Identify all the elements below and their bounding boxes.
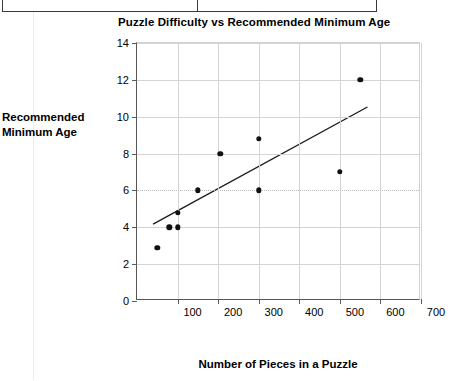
gridline-x-100 bbox=[178, 43, 179, 299]
gridline-x-600 bbox=[380, 43, 381, 299]
tick-x-200 bbox=[218, 299, 219, 304]
gridline-y-8 bbox=[137, 154, 419, 155]
plot-inner: 02468101214100200300400500600700 bbox=[137, 43, 419, 299]
table-fragment-cell-1 bbox=[2, 0, 198, 12]
y-tick-label-6: 6 bbox=[123, 184, 129, 196]
y-tick-label-10: 10 bbox=[117, 111, 129, 123]
x-axis-title: Number of Pieces in a Puzzle bbox=[136, 358, 420, 370]
gridline-y-6 bbox=[137, 190, 419, 191]
tick-x-500 bbox=[340, 299, 341, 304]
tick-x-400 bbox=[299, 299, 300, 304]
gridline-x-300 bbox=[259, 43, 260, 299]
y-axis-title: Recommended Minimum Age bbox=[2, 110, 114, 140]
plot-area: 02468101214100200300400500600700 bbox=[136, 42, 420, 300]
table-fragment bbox=[0, 0, 452, 14]
gridline-y-2 bbox=[137, 264, 419, 265]
table-fragment-cell-2 bbox=[197, 0, 377, 12]
y-axis-title-line-2: Minimum Age bbox=[2, 125, 114, 140]
y-tick-label-8: 8 bbox=[123, 148, 129, 160]
gridline-y-14 bbox=[137, 43, 419, 44]
tick-y-12 bbox=[132, 80, 137, 81]
x-tick-label-600: 600 bbox=[386, 306, 404, 318]
gridline-x-200 bbox=[218, 43, 219, 299]
tick-y-2 bbox=[132, 264, 137, 265]
x-tick-label-200: 200 bbox=[224, 306, 242, 318]
x-tick-label-700: 700 bbox=[427, 306, 445, 318]
x-tick-label-300: 300 bbox=[265, 306, 283, 318]
trendline bbox=[137, 43, 419, 299]
x-tick-label-100: 100 bbox=[183, 306, 201, 318]
y-tick-label-12: 12 bbox=[117, 74, 129, 86]
gridline-y-10 bbox=[137, 117, 419, 118]
y-axis-title-line-1: Recommended bbox=[2, 110, 114, 125]
y-tick-label-14: 14 bbox=[117, 37, 129, 49]
y-tick-label-0: 0 bbox=[123, 295, 129, 307]
chart-title: Puzzle Difficulty vs Recommended Minimum… bbox=[118, 16, 452, 28]
tick-y-10 bbox=[132, 117, 137, 118]
y-tick-label-2: 2 bbox=[123, 258, 129, 270]
tick-y-8 bbox=[132, 154, 137, 155]
x-tick-label-500: 500 bbox=[346, 306, 364, 318]
tick-y-14 bbox=[132, 43, 137, 44]
tick-y-4 bbox=[132, 227, 137, 228]
tick-x-700 bbox=[421, 299, 422, 304]
y-tick-label-4: 4 bbox=[123, 221, 129, 233]
tick-x-300 bbox=[259, 299, 260, 304]
chart-canvas: Puzzle Difficulty vs Recommended Minimum… bbox=[0, 0, 452, 381]
tick-y-6 bbox=[132, 190, 137, 191]
x-tick-label-400: 400 bbox=[305, 306, 323, 318]
gridline-x-700 bbox=[421, 43, 422, 299]
tick-x-100 bbox=[178, 299, 179, 304]
tick-x-600 bbox=[380, 299, 381, 304]
tick-y-0 bbox=[132, 301, 137, 302]
gridline-y-12 bbox=[137, 80, 419, 81]
page-margin-rule bbox=[33, 12, 34, 380]
gridline-x-400 bbox=[299, 43, 300, 299]
